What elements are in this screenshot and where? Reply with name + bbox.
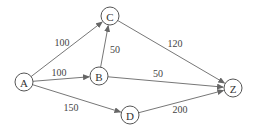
edge-weight-label: 50	[153, 68, 163, 79]
edge-weight-label: 100	[55, 37, 70, 48]
edge-line	[108, 77, 223, 87]
node-label: B	[95, 71, 102, 83]
nodes-layer: ABCDZ	[15, 7, 242, 124]
edge-c-z	[118, 21, 225, 83]
edge-weight-label: 200	[173, 104, 188, 115]
node-a: A	[15, 73, 33, 91]
edge-weight-label: 50	[110, 44, 120, 55]
graph-diagram: 1001005015012050200 ABCDZ	[0, 0, 256, 128]
edge-labels-layer: 1001005015012050200	[52, 37, 188, 115]
edge-b-c	[101, 26, 109, 67]
node-label: D	[126, 110, 134, 122]
node-d: D	[121, 106, 139, 124]
node-b: B	[90, 67, 108, 85]
graph-svg: 1001005015012050200 ABCDZ	[0, 0, 256, 128]
edge-line	[118, 21, 225, 83]
edge-weight-label: 120	[168, 38, 183, 49]
edge-line	[101, 26, 109, 67]
node-z: Z	[224, 79, 242, 97]
node-label: A	[20, 77, 28, 89]
edge-a-c	[31, 22, 102, 76]
node-c: C	[101, 7, 119, 25]
edge-line	[31, 22, 102, 76]
node-label: C	[106, 11, 113, 23]
node-label: Z	[230, 83, 237, 95]
edge-weight-label: 150	[64, 102, 79, 113]
edge-weight-label: 100	[52, 67, 67, 78]
edge-b-z	[108, 77, 223, 87]
